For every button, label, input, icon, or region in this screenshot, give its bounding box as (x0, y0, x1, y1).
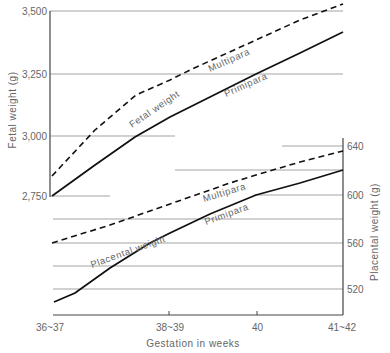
right-tick-640: 640 (347, 141, 364, 152)
fetal-primipara-line (52, 32, 343, 196)
left-axis-title: Fetal weight (g) (7, 72, 18, 149)
fetal-multipara-line (52, 4, 343, 176)
right-tick-600: 600 (347, 190, 364, 201)
x-tick-label-41-42: 41~42 (328, 322, 357, 333)
fetal-multipara-label: Multipara (206, 46, 251, 74)
left-tick-3500: 3,500 (22, 6, 47, 17)
placental-primipara-line (54, 170, 343, 302)
x-tick-label-38-39: 38~39 (156, 322, 185, 333)
right-tick-520: 520 (347, 284, 364, 295)
gestation-weight-chart: 3,500 3,250 3,000 2,750 640 600 560 520 … (0, 0, 390, 353)
fetal-weight-label: Fetal weight (127, 88, 182, 130)
left-tick-3000: 3,000 (22, 131, 47, 142)
placental-multipara-label: Multipara (201, 180, 247, 204)
x-tick-label-36-37: 36~37 (36, 322, 65, 333)
placental-weight-label: Placental weight (89, 233, 167, 270)
left-tick-2750: 2,750 (22, 191, 47, 202)
x-tick-label-40: 40 (252, 322, 264, 333)
left-tick-3250: 3,250 (22, 69, 47, 80)
right-tick-560: 560 (347, 238, 364, 249)
right-axis-title: Placental weight (g) (369, 183, 380, 281)
placental-primipara-label: Primipara (203, 201, 250, 227)
x-axis-title: Gestation in weeks (146, 338, 240, 349)
